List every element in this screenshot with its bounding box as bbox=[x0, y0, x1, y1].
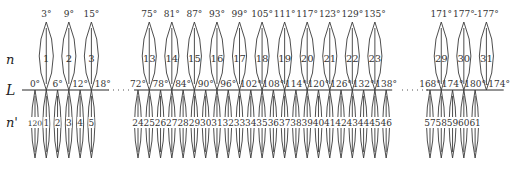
central-meridian-label: 105° bbox=[251, 9, 273, 19]
three-degree-zone-number: 43 bbox=[347, 118, 359, 128]
longitude-tick-label: 102° bbox=[240, 79, 262, 89]
six-degree-zone-number: 19 bbox=[278, 53, 291, 64]
three-degree-zone-number: 39 bbox=[301, 118, 313, 128]
three-degree-zone-number: 28 bbox=[177, 118, 189, 128]
longitude-tick-label: 6° bbox=[52, 79, 62, 89]
six-degree-zone-number: 30 bbox=[457, 53, 470, 64]
three-degree-zone-number: 4 bbox=[77, 118, 83, 128]
zone-diagram-canvas: n L n' 3°19°215°3120123450°6°12°18°75°13… bbox=[0, 0, 515, 170]
diagram-labels: 3°19°215°3120123450°6°12°18°75°1381°1487… bbox=[28, 9, 510, 128]
central-meridian-label: 171° bbox=[430, 9, 452, 19]
central-meridian-label: 99° bbox=[232, 9, 248, 19]
three-degree-zone-number: 61 bbox=[469, 118, 480, 128]
six-degree-zone-number: 1 bbox=[43, 53, 49, 64]
central-meridian-label: 111° bbox=[274, 9, 296, 19]
six-degree-zone-number: 17 bbox=[233, 53, 246, 64]
three-degree-zone-number: 24 bbox=[132, 118, 144, 128]
three-degree-zone-number: 46 bbox=[380, 118, 392, 128]
longitude-tick-label: 108° bbox=[263, 79, 285, 89]
three-degree-zone-number: 35 bbox=[256, 118, 268, 128]
six-degree-zone-number: 23 bbox=[369, 53, 382, 64]
six-degree-zone-number: 15 bbox=[188, 53, 201, 64]
central-meridian-label: 87° bbox=[186, 9, 202, 19]
central-meridian-label: 129° bbox=[341, 9, 363, 19]
three-degree-zone-number: 57 bbox=[424, 118, 436, 128]
lower-row-label: n' bbox=[6, 115, 18, 130]
six-degree-zone-number: 20 bbox=[301, 53, 314, 64]
longitude-tick-label: 114° bbox=[285, 79, 307, 89]
longitude-tick-label: 96° bbox=[220, 79, 236, 89]
three-degree-zone-number: 37 bbox=[279, 118, 291, 128]
central-meridian-label: 117° bbox=[296, 9, 318, 19]
six-degree-zone-number: 22 bbox=[346, 53, 359, 64]
longitude-tick-label: 168° bbox=[419, 79, 441, 89]
longitude-tick-label: 120° bbox=[308, 79, 330, 89]
three-degree-zone-number: 1 bbox=[43, 118, 49, 128]
six-degree-zone-number: 18 bbox=[256, 53, 269, 64]
central-meridian-label: 3° bbox=[41, 9, 51, 19]
zone-division-diagram: n L n' 3°19°215°3120123450°6°12°18°75°13… bbox=[0, 0, 515, 170]
central-meridian-label: 75° bbox=[141, 9, 157, 19]
three-degree-zone-number: 3 bbox=[66, 118, 72, 128]
six-degree-zone-number: 3 bbox=[88, 53, 94, 64]
central-meridian-label: -177° bbox=[474, 9, 499, 19]
longitude-tick-label: 84° bbox=[175, 79, 191, 89]
longitude-tick-label: 18° bbox=[95, 79, 111, 89]
three-degree-zone-number: 58 bbox=[436, 118, 448, 128]
longitude-tick-label: 0° bbox=[30, 79, 40, 89]
central-meridian-label: 9° bbox=[64, 9, 74, 19]
three-degree-zone-number: 60 bbox=[458, 118, 470, 128]
three-degree-zone-number: 32 bbox=[223, 118, 234, 128]
longitude-tick-label: 132° bbox=[353, 79, 375, 89]
three-degree-zone-number: 30 bbox=[200, 118, 212, 128]
diagram-lines bbox=[22, 22, 504, 158]
three-degree-zone-number: 25 bbox=[144, 118, 156, 128]
three-degree-zone-number: 29 bbox=[189, 118, 201, 128]
six-degree-zone-number: 21 bbox=[323, 53, 336, 64]
longitude-tick-label: 78° bbox=[153, 79, 169, 89]
longitude-tick-label: 126° bbox=[330, 79, 352, 89]
longitude-tick-label: 12° bbox=[72, 79, 88, 89]
six-degree-zone-number: 16 bbox=[211, 53, 224, 64]
six-degree-zone-number: 31 bbox=[480, 53, 493, 64]
central-meridian-label: 15° bbox=[83, 9, 99, 19]
longitude-tick-label: 90° bbox=[198, 79, 214, 89]
central-meridian-label: 93° bbox=[209, 9, 225, 19]
three-degree-zone-number: 31 bbox=[211, 118, 222, 128]
three-degree-zone-number: 41 bbox=[324, 118, 335, 128]
three-degree-zone-number: 45 bbox=[369, 118, 381, 128]
three-degree-zone-number: 2 bbox=[55, 118, 61, 128]
central-meridian-label: 123° bbox=[319, 9, 341, 19]
six-degree-zone-number: 14 bbox=[165, 53, 178, 64]
three-degree-zone-number: 40 bbox=[313, 118, 325, 128]
central-meridian-label: 177° bbox=[453, 9, 475, 19]
longitude-tick-label: -174° bbox=[485, 79, 510, 89]
longitude-tick-label: 174° bbox=[442, 79, 464, 89]
three-degree-zone-number: 120 bbox=[28, 119, 43, 128]
longitude-tick-label: 138° bbox=[375, 79, 397, 89]
longitude-tick-label: 72° bbox=[130, 79, 146, 89]
upper-row-label: n bbox=[6, 52, 14, 67]
six-degree-zone-number: 13 bbox=[143, 53, 156, 64]
three-degree-zone-number: 36 bbox=[268, 118, 280, 128]
three-degree-zone-number: 26 bbox=[155, 118, 167, 128]
three-degree-zone-number: 44 bbox=[358, 118, 370, 128]
three-degree-zone-number: 38 bbox=[290, 118, 302, 128]
axis-label: L bbox=[5, 82, 15, 98]
three-degree-zone-number: 34 bbox=[245, 118, 257, 128]
central-meridian-label: 135° bbox=[364, 9, 386, 19]
three-degree-zone-number: 27 bbox=[166, 118, 178, 128]
longitude-tick-label: 180° bbox=[464, 79, 486, 89]
central-meridian-label: 81° bbox=[164, 9, 180, 19]
three-degree-zone-number: 59 bbox=[447, 118, 459, 128]
six-degree-zone-number: 29 bbox=[435, 53, 448, 64]
three-degree-zone-number: 42 bbox=[335, 118, 346, 128]
three-degree-zone-number: 33 bbox=[234, 118, 246, 128]
six-degree-zone-number: 2 bbox=[66, 53, 72, 64]
three-degree-zone-number: 5 bbox=[89, 118, 95, 128]
